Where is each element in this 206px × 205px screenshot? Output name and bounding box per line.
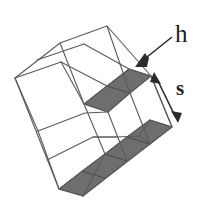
grid-col-line-1	[37, 44, 84, 60]
grid-col-line-a	[15, 62, 61, 78]
figure-container: h s	[0, 0, 206, 205]
grid-lower-row-1	[38, 112, 108, 131]
grid-row-line-1	[60, 43, 84, 104]
label-h: h	[175, 21, 188, 46]
s-arrow-head-bottom-icon	[171, 111, 182, 123]
h-arrow-group	[135, 37, 172, 67]
grid-lower-col-1	[15, 78, 38, 131]
label-s: s	[176, 78, 184, 99]
s-arrow-head-top-icon	[150, 72, 161, 84]
grid-right-flank	[151, 76, 172, 127]
grid-col-line-3	[84, 44, 129, 69]
grid-lower-col-2	[38, 131, 59, 189]
